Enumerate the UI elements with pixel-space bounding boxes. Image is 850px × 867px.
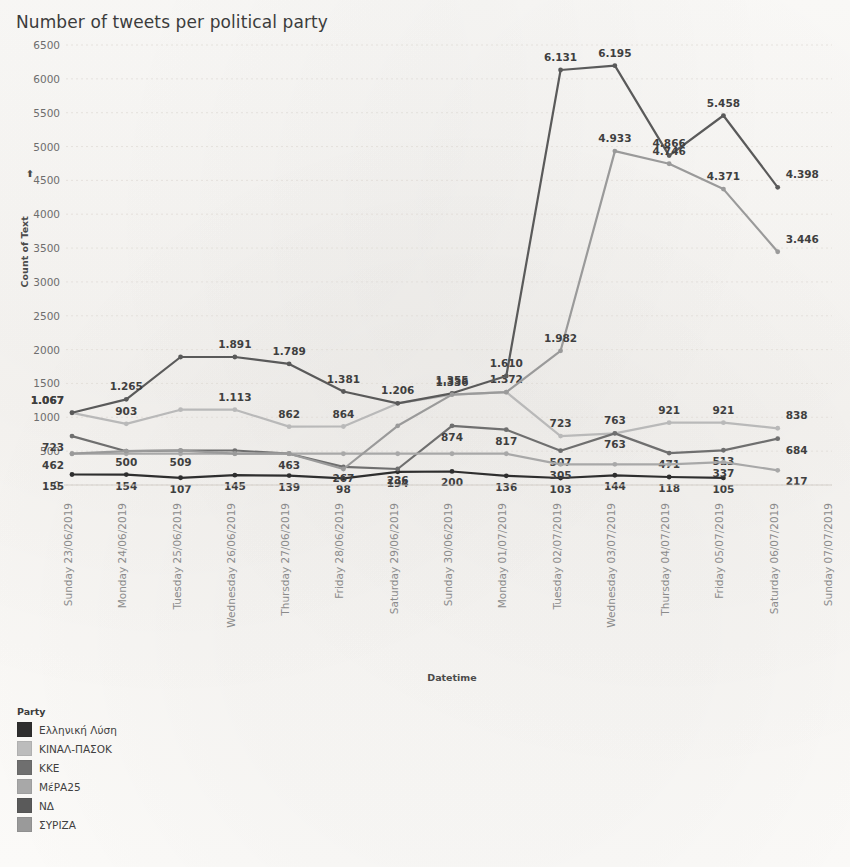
series-point[interactable] <box>558 434 563 439</box>
data-point-label: 1.982 <box>544 332 577 344</box>
series-point[interactable] <box>287 473 292 478</box>
series-line <box>72 66 778 413</box>
x-axis-tick-label: Sunday 07/07/2019 <box>822 503 834 606</box>
legend-title: Party <box>17 706 117 717</box>
series-point[interactable] <box>124 421 129 426</box>
series-point[interactable] <box>232 473 237 478</box>
series-point[interactable] <box>124 449 129 454</box>
series-point[interactable] <box>395 401 400 406</box>
series-point[interactable] <box>287 361 292 366</box>
series-point[interactable] <box>612 63 617 68</box>
series-point[interactable] <box>70 472 75 477</box>
series-point[interactable] <box>178 355 183 360</box>
x-axis-tick-label: Tuesday 02/07/2019 <box>551 503 563 611</box>
series-point[interactable] <box>504 473 509 478</box>
series-point[interactable] <box>70 451 75 456</box>
x-axis-tick-label: Wednesday 26/06/2019 <box>225 503 237 628</box>
series-point[interactable] <box>721 113 726 118</box>
series-point[interactable] <box>178 475 183 480</box>
series-point[interactable] <box>667 420 672 425</box>
series-point[interactable] <box>341 389 346 394</box>
series-point[interactable] <box>612 431 617 436</box>
series-point[interactable] <box>612 462 617 467</box>
series-point[interactable] <box>612 473 617 478</box>
series-point[interactable] <box>667 451 672 456</box>
y-axis-tick-label: 6000 <box>33 73 60 85</box>
data-point-label: 5.458 <box>707 97 740 109</box>
series-point[interactable] <box>558 448 563 453</box>
series-point[interactable] <box>70 434 75 439</box>
legend-item-3[interactable]: ΜέΡΑ25 <box>17 779 117 794</box>
series-point[interactable] <box>287 424 292 429</box>
legend-item-2[interactable]: ΚΚΕ <box>17 760 117 775</box>
data-point-label: 838 <box>786 409 808 421</box>
series-point[interactable] <box>395 451 400 456</box>
series-point[interactable] <box>341 451 346 456</box>
series-point[interactable] <box>450 451 455 456</box>
legend-item-label: ΚΙΝΑΛ-ΠΑΣΟΚ <box>39 743 112 755</box>
series-point[interactable] <box>232 407 237 412</box>
x-axis-tick-label: Thursday 27/06/2019 <box>279 503 291 617</box>
series-point[interactable] <box>341 467 346 472</box>
series-point[interactable] <box>775 436 780 441</box>
x-axis-tick-label: Thursday 04/07/2019 <box>659 503 671 617</box>
series-point[interactable] <box>721 187 726 192</box>
series-point[interactable] <box>721 448 726 453</box>
series-point[interactable] <box>178 448 183 453</box>
series-point[interactable] <box>667 161 672 166</box>
series-point[interactable] <box>558 348 563 353</box>
series-point[interactable] <box>667 462 672 467</box>
data-point-label: 723 <box>42 441 64 453</box>
series-point[interactable] <box>504 390 509 395</box>
series-point[interactable] <box>612 149 617 154</box>
legend-item-4[interactable]: ΝΔ <box>17 798 117 813</box>
series-point[interactable] <box>70 410 75 415</box>
y-axis-tick-label: 6500 <box>33 39 60 51</box>
legend-item-label: ΜέΡΑ25 <box>39 781 81 793</box>
series-point[interactable] <box>775 468 780 473</box>
series-point[interactable] <box>775 426 780 431</box>
y-axis-tick-label: 2000 <box>33 344 60 356</box>
series-point[interactable] <box>450 423 455 428</box>
x-axis-tick-label: Sunday 30/06/2019 <box>442 503 454 606</box>
series-point[interactable] <box>558 68 563 73</box>
data-point-label: 684 <box>786 444 808 456</box>
data-point-label: 217 <box>786 475 808 487</box>
chart-legend: Party Ελληνική ΛύσηΚΙΝΑΛ-ΠΑΣΟΚΚΚΕΜέΡΑ25Ν… <box>17 706 117 836</box>
legend-item-1[interactable]: ΚΙΝΑΛ-ΠΑΣΟΚ <box>17 741 117 756</box>
series-point[interactable] <box>504 374 509 379</box>
data-point-label: 1.265 <box>110 380 143 392</box>
series-point[interactable] <box>178 407 183 412</box>
legend-item-0[interactable]: Ελληνική Λύση <box>17 722 117 737</box>
series-point[interactable] <box>450 469 455 474</box>
series-point[interactable] <box>775 249 780 254</box>
legend-item-5[interactable]: ΣΥΡΙΖΑ <box>17 817 117 832</box>
x-axis-tick-label: Wednesday 03/07/2019 <box>605 503 617 628</box>
legend-color-swatch <box>17 779 32 794</box>
series-point[interactable] <box>341 424 346 429</box>
series-point[interactable] <box>450 392 455 397</box>
data-point-label: 874 <box>441 431 463 443</box>
x-axis-tick-label: Friday 05/07/2019 <box>713 503 725 599</box>
series-point[interactable] <box>721 420 726 425</box>
series-point[interactable] <box>124 397 129 402</box>
data-point-label: 305 <box>550 469 572 481</box>
y-axis-tick-label: 4500 <box>33 174 60 186</box>
y-axis-title: Count of Text <box>19 216 30 288</box>
legend-color-swatch <box>17 741 32 756</box>
data-point-label: 1.355 <box>435 374 468 386</box>
data-point-label: 903 <box>115 405 137 417</box>
series-point[interactable] <box>504 427 509 432</box>
series-point[interactable] <box>395 467 400 472</box>
series-point[interactable] <box>558 462 563 467</box>
series-point[interactable] <box>232 355 237 360</box>
series-point[interactable] <box>287 451 292 456</box>
series-point[interactable] <box>667 475 672 480</box>
series-point[interactable] <box>721 460 726 465</box>
series-point[interactable] <box>395 423 400 428</box>
series-point[interactable] <box>124 472 129 477</box>
series-point[interactable] <box>775 185 780 190</box>
series-point[interactable] <box>504 451 509 456</box>
series-point[interactable] <box>232 451 237 456</box>
y-axis-tick-label: 2500 <box>33 310 60 322</box>
